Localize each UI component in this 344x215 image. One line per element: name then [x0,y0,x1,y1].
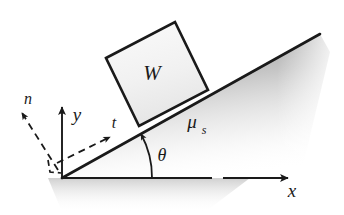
angle-theta-label: θ [158,145,167,165]
tangent-vector-label: t [112,114,117,131]
incline-wedge-fade [200,28,340,178]
normal-vector-label: n [24,90,32,107]
diagram-canvas: W μ s θ x y n t [0,0,344,215]
weight-label: W [143,61,163,85]
normal-vector-n [22,113,58,170]
base-shadow [48,178,250,212]
inclined-plane-figure: W μ s θ x y n t [0,0,344,215]
friction-coefficient-label: μ [186,111,197,132]
friction-subscript-label: s [202,123,207,137]
y-axis-label: y [71,104,82,125]
x-axis-label: x [287,180,297,201]
